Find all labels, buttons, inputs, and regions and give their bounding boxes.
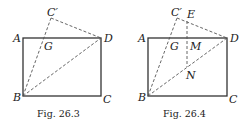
label-m: M bbox=[189, 40, 202, 53]
figure-26-3: A B C D C′ G Fig. 26.3 bbox=[12, 6, 113, 119]
caption: Fig. 26.3 bbox=[37, 108, 80, 119]
figure-26-4: A B C D C′ E G M N Fig. 26.4 bbox=[137, 6, 239, 119]
label-b: B bbox=[137, 91, 146, 104]
label-g: G bbox=[170, 40, 179, 53]
label-a: A bbox=[12, 32, 21, 45]
diagonal-bd bbox=[23, 38, 101, 96]
segment-b-cprime bbox=[23, 18, 51, 96]
segment-b-cprime bbox=[148, 18, 177, 96]
label-g: G bbox=[44, 40, 53, 53]
diagonal-bd bbox=[148, 38, 227, 96]
label-e: E bbox=[186, 8, 195, 21]
segment-cprime-d bbox=[51, 18, 101, 38]
geometry-figures: A B C D C′ G Fig. 26.3 A B C D C′ E G M … bbox=[0, 0, 249, 123]
label-c: C bbox=[103, 93, 112, 106]
label-c-prime: C′ bbox=[171, 6, 182, 19]
label-c: C bbox=[229, 93, 238, 106]
label-d: D bbox=[229, 32, 239, 45]
segment-cprime-d bbox=[177, 18, 227, 38]
label-n: N bbox=[185, 69, 196, 82]
label-b: B bbox=[12, 91, 21, 104]
caption: Fig. 26.4 bbox=[163, 108, 206, 119]
label-a: A bbox=[137, 32, 146, 45]
label-c-prime: C′ bbox=[47, 6, 58, 19]
label-d: D bbox=[103, 32, 113, 45]
rectangle-abcd bbox=[148, 38, 227, 96]
